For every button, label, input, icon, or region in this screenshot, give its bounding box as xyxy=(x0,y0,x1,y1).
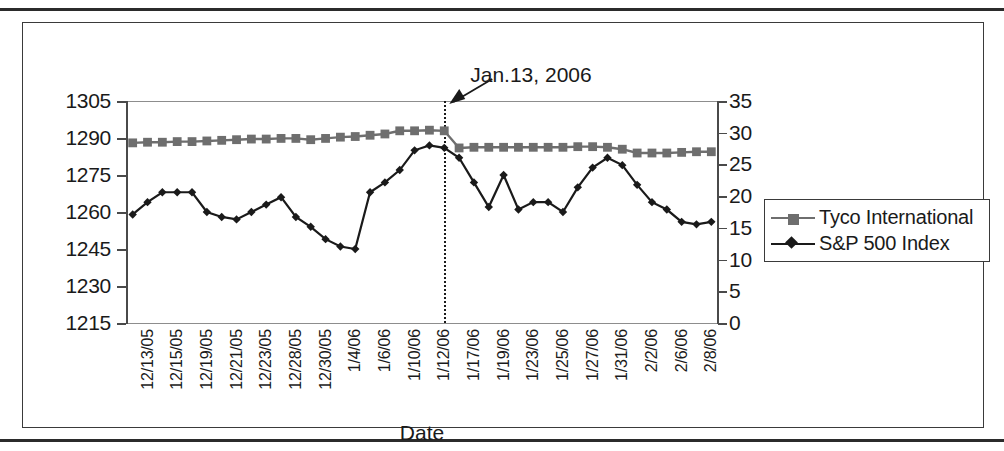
x-axis-tick-label: 12/13/05 xyxy=(139,329,157,390)
y-axis-left-tick-label: 1245 xyxy=(65,237,111,261)
x-axis-tick-label: 1/23/06 xyxy=(524,329,542,381)
x-axis-tick-label: 12/28/05 xyxy=(287,329,305,390)
y-axis-left-tick xyxy=(117,175,126,177)
y-axis-left-tick xyxy=(117,249,126,251)
data-point-square xyxy=(351,132,360,141)
data-point-square xyxy=(677,148,686,157)
data-point-square xyxy=(470,143,479,152)
y-axis-left-tick-label: 1305 xyxy=(65,89,111,113)
top-rule xyxy=(0,8,1004,11)
y-axis-right-tick xyxy=(718,260,727,262)
x-axis-labels: 12/13/0512/15/0512/19/0512/21/0512/23/05… xyxy=(126,327,718,423)
data-point-square xyxy=(588,142,597,151)
annotation-arrow-head-icon xyxy=(449,89,465,104)
legend-label-sp500: S&P 500 Index xyxy=(819,232,949,255)
y-axis-left-tick-label: 1215 xyxy=(65,311,111,335)
data-point-diamond xyxy=(218,213,226,221)
data-point-square xyxy=(514,143,523,152)
data-point-square xyxy=(529,143,538,152)
legend-marker-square-icon xyxy=(771,210,815,226)
legend-item-tyco: Tyco International xyxy=(771,206,983,229)
x-axis-title: Date xyxy=(126,421,718,445)
x-axis-tick-label: 12/15/05 xyxy=(168,329,186,390)
y-axis-right-tick-label: 30 xyxy=(729,121,752,145)
x-axis-tick-label: 1/10/06 xyxy=(406,329,424,381)
x-axis-tick-label: 12/30/05 xyxy=(317,329,335,390)
x-axis-tick-label: 1/31/06 xyxy=(613,329,631,381)
data-point-square xyxy=(395,126,404,135)
data-point-diamond xyxy=(262,200,270,208)
data-point-square xyxy=(484,143,493,152)
x-axis-tick-label: 1/6/06 xyxy=(376,329,394,372)
x-axis-tick-label: 2/2/06 xyxy=(643,329,661,372)
data-point-square xyxy=(202,137,211,146)
y-axis-right-tick-label: 0 xyxy=(729,311,740,335)
data-point-square xyxy=(573,142,582,151)
y-axis-right-tick-label: 20 xyxy=(729,184,752,208)
data-point-diamond xyxy=(232,215,240,223)
data-point-square xyxy=(143,138,152,147)
y-axis-left-tick xyxy=(117,323,126,325)
data-point-square xyxy=(662,149,671,158)
data-point-square xyxy=(128,138,137,147)
y-axis-right-tick xyxy=(718,164,727,166)
data-point-square xyxy=(158,138,167,147)
x-axis-tick-label: 1/19/06 xyxy=(495,329,513,381)
data-point-square xyxy=(173,137,182,146)
x-axis-tick-label: 1/12/06 xyxy=(435,329,453,381)
data-point-square xyxy=(247,135,256,144)
plot-area: Jan.13, 2006 xyxy=(126,101,718,323)
y-axis-left-tick-label: 1230 xyxy=(65,274,111,298)
data-point-square xyxy=(499,143,508,152)
x-axis-tick-label: 2/8/06 xyxy=(702,329,720,372)
y-axis-right-tick-label: 25 xyxy=(729,152,752,176)
data-point-diamond xyxy=(425,141,433,149)
data-point-diamond xyxy=(692,220,700,228)
y-axis-left-tick xyxy=(117,286,126,288)
x-axis-tick-label: 1/27/06 xyxy=(584,329,602,381)
legend-item-sp500: S&P 500 Index xyxy=(771,232,983,255)
data-point-square xyxy=(366,131,375,140)
data-point-square xyxy=(603,143,612,152)
figure-page: 1215123012451260127512901305 05101520253… xyxy=(0,0,1004,451)
data-point-square xyxy=(336,133,345,142)
data-point-square xyxy=(633,149,642,158)
data-point-square xyxy=(455,144,464,153)
data-point-square xyxy=(544,143,553,152)
data-point-square xyxy=(707,147,716,156)
y-axis-left-tick-label: 1275 xyxy=(65,163,111,187)
data-point-diamond xyxy=(336,242,344,250)
x-axis-tick-label: 2/6/06 xyxy=(673,329,691,372)
y-axis-right-tick xyxy=(718,323,727,325)
data-point-square xyxy=(381,130,390,139)
data-point-square xyxy=(692,147,701,156)
legend-label-tyco: Tyco International xyxy=(819,206,973,229)
x-axis-tick-label: 12/19/05 xyxy=(198,329,216,390)
event-annotation-label: Jan.13, 2006 xyxy=(470,63,591,87)
y-axis-left-tick-label: 1290 xyxy=(65,126,111,150)
y-axis-left-tick xyxy=(117,212,126,214)
y-axis-right-tick xyxy=(718,228,727,230)
data-point-square xyxy=(559,143,568,152)
series-svg xyxy=(126,101,718,323)
plot-bottom-border xyxy=(126,323,718,324)
y-axis-left-labels: 1215123012451260127512901305 xyxy=(23,101,111,323)
y-axis-right-tick xyxy=(718,196,727,198)
data-point-square xyxy=(321,134,330,143)
x-axis-tick-label: 12/23/05 xyxy=(257,329,275,390)
y-axis-right-tick-label: 5 xyxy=(729,279,740,303)
series-line xyxy=(133,145,712,249)
data-point-square xyxy=(425,126,434,135)
y-axis-right-tick-label: 35 xyxy=(729,89,752,113)
data-point-square xyxy=(306,135,315,144)
data-point-square xyxy=(277,134,286,143)
x-axis-tick-label: 1/4/06 xyxy=(346,329,364,372)
y-axis-left-tick xyxy=(117,101,126,103)
data-point-square xyxy=(648,149,657,158)
data-point-diamond xyxy=(514,205,522,213)
data-point-square xyxy=(232,135,241,144)
data-point-diamond xyxy=(499,171,507,179)
data-point-diamond xyxy=(173,188,181,196)
data-point-diamond xyxy=(351,245,359,253)
y-axis-right-tick xyxy=(718,133,727,135)
